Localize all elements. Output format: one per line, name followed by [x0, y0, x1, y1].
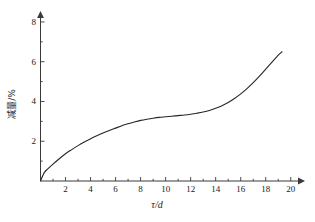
x-axis-ticks [53, 177, 291, 181]
y-axis-ticks [41, 22, 45, 161]
axes-group [37, 11, 305, 184]
x-tick-label: 8 [138, 185, 143, 194]
chart-figure: 2468101214161820 2468 τ/d 减量/% [0, 0, 315, 222]
x-tick-label: 10 [161, 185, 170, 194]
x-axis-arrow-icon [298, 178, 305, 185]
x-tick-label: 18 [261, 185, 270, 194]
y-tick-label: 2 [24, 137, 36, 146]
x-axis-title: τ/d [151, 199, 162, 210]
y-tick-label: 6 [24, 57, 36, 66]
x-tick-label: 20 [286, 185, 295, 194]
chart-series-group [41, 52, 283, 181]
x-tick-label: 6 [113, 185, 118, 194]
x-tick-label: 16 [236, 185, 245, 194]
x-tick-label: 12 [186, 185, 195, 194]
y-axis-arrow-icon [37, 11, 44, 18]
y-tick-label: 8 [24, 17, 36, 26]
y-tick-label: 4 [24, 97, 36, 106]
y-axis-title: 减量/% [5, 89, 18, 119]
series-line [41, 52, 283, 181]
x-tick-label: 4 [88, 185, 93, 194]
x-tick-label: 14 [211, 185, 220, 194]
x-tick-label: 2 [63, 185, 68, 194]
